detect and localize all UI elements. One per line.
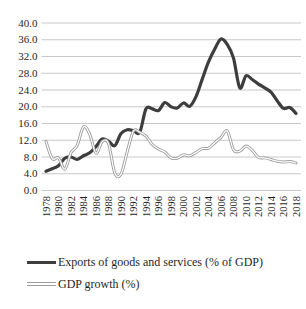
x-axis-tick-label: 1986	[91, 196, 102, 217]
legend-label-exports: Exports of goods and services (% of GDP)	[58, 255, 263, 269]
x-axis-tick-label: 2002	[191, 196, 202, 217]
legend-item-exports: Exports of goods and services (% of GDP)	[27, 254, 306, 270]
exports-line-swatch	[27, 261, 56, 264]
y-axis-labels: 40.036.032.028.024.020.016.012.08.04.00.…	[18, 17, 38, 197]
x-axis-tick-label: 1990	[116, 196, 127, 217]
x-axis-tick-label: 2008	[228, 196, 239, 217]
x-axis-tick-label: 2014	[266, 195, 277, 217]
x-axis-tick-label: 2016	[278, 196, 289, 217]
x-axis-tick-label: 1982	[66, 196, 77, 217]
x-axis-tick-label: 1992	[128, 196, 139, 217]
gdp-growth-line	[46, 126, 296, 176]
y-axis-tick-label: 0.0	[24, 184, 38, 196]
y-axis-tick-label: 28.0	[18, 67, 38, 79]
y-axis-tick-label: 36.0	[18, 33, 38, 45]
x-axis-labels: 1978198019821984198619881990199219941996…	[41, 195, 302, 217]
line-chart: 40.036.032.028.024.020.016.012.08.04.00.…	[0, 0, 306, 238]
y-axis-tick-label: 8.0	[24, 151, 38, 163]
legend-item-gdp-growth: GDP growth (%)	[27, 276, 306, 292]
gdp-growth-line-core	[46, 126, 296, 176]
x-axis-tick-label: 2012	[253, 196, 264, 217]
x-axis-tick-label: 1984	[78, 195, 89, 217]
y-axis-tick-label: 4.0	[24, 167, 38, 179]
y-axis-tick-label: 12.0	[18, 134, 38, 146]
gdp-growth-line-swatch	[27, 282, 56, 286]
x-axis-tick-label: 2010	[241, 196, 252, 217]
exports-line	[46, 39, 296, 171]
x-axis-tick-label: 1978	[41, 196, 52, 217]
series-lines	[46, 39, 296, 177]
x-axis-tick-label: 2000	[178, 196, 189, 217]
x-axis-tick-label: 2004	[203, 195, 214, 217]
y-axis-tick-label: 32.0	[18, 50, 38, 62]
legend-label-gdp-growth: GDP growth (%)	[58, 277, 140, 291]
x-axis-tick-label: 1996	[153, 196, 164, 217]
y-axis-tick-label: 16.0	[18, 117, 38, 129]
x-axis-tick-label: 1988	[103, 196, 114, 217]
x-axis-tick-label: 2018	[291, 196, 302, 217]
x-axis-tick-label: 1980	[53, 196, 64, 217]
x-axis-tick-label: 1994	[141, 195, 152, 217]
x-axis-tick-label: 1998	[166, 196, 177, 217]
chart-figure: 40.036.032.028.024.020.016.012.08.04.00.…	[0, 0, 306, 309]
y-axis-tick-label: 40.0	[18, 17, 38, 29]
chart-legend: Exports of goods and services (% of GDP)…	[27, 254, 306, 292]
y-axis-tick-label: 24.0	[18, 84, 38, 96]
y-axis-tick-label: 20.0	[18, 100, 38, 112]
x-axis-tick-label: 2006	[216, 196, 227, 217]
